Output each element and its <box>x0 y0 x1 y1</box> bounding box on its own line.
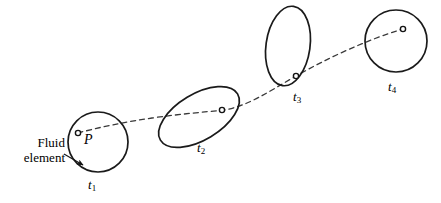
particle-marker-t1-icon <box>75 130 80 135</box>
time-label-t2-sub: 2 <box>201 146 206 156</box>
time-label-t2: t2 <box>197 141 205 156</box>
callout-line-1: Fluid <box>10 136 65 151</box>
particle-marker-t4-icon <box>400 26 405 31</box>
fluid-element-t4-outline <box>365 10 427 72</box>
fluid-element-callout-label: Fluid element <box>10 136 65 165</box>
time-label-t4-sub: 4 <box>392 85 397 95</box>
point-p-label: P <box>84 132 93 148</box>
diagram-canvas <box>0 0 441 203</box>
fluid-element-t3-outline <box>261 3 316 88</box>
particle-marker-t2-icon <box>219 107 224 112</box>
fluid-element-trajectory-figure: Fluid element P t1 t2 t3 t4 <box>0 0 441 203</box>
time-label-t4: t4 <box>388 80 396 95</box>
particle-pathline-icon <box>78 29 403 133</box>
time-label-t1: t1 <box>88 178 96 193</box>
time-label-t3-sub: 3 <box>297 95 302 105</box>
fluid-element-t1-outline <box>68 112 128 172</box>
time-label-t1-sub: 1 <box>92 183 97 193</box>
fluid-element-callout-arrow-icon <box>64 154 83 165</box>
particle-marker-t3-icon <box>293 73 298 78</box>
callout-line-2: element <box>10 151 65 166</box>
time-label-t3: t3 <box>293 90 301 105</box>
